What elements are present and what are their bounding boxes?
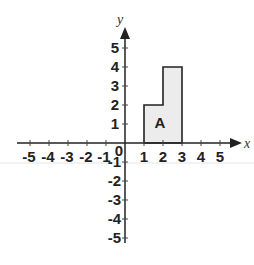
y-tick-label: -4 [108,210,122,227]
x-tick-label: -3 [60,148,73,165]
origin-label: 0 [115,142,123,159]
x-tick-label: 1 [140,148,148,165]
x-tick-label: 2 [159,148,167,165]
coordinate-plane: -5 -4 -3 -2 -1 1 2 3 4 5 5 4 3 2 1 -1 -2… [0,0,254,265]
y-tick-label: 3 [111,77,119,94]
y-tick-label: 4 [111,58,120,75]
y-tick-label: 1 [111,115,119,132]
x-axis-label: x [243,136,251,151]
y-tick-label: -3 [108,191,121,208]
x-tick-label: 3 [178,148,186,165]
x-tick-label: -5 [22,148,35,165]
x-axis-arrow-icon [230,138,242,148]
x-tick-label: 5 [216,148,224,165]
y-tick-label: -2 [108,172,121,189]
y-tick-label: 5 [111,39,119,56]
region-a-label: A [155,114,166,131]
x-tick-label: -4 [41,148,55,165]
region-a [144,67,182,143]
y-tick-label: -5 [108,229,121,246]
y-axis-label: y [115,12,124,27]
y-axis-arrow-icon [120,27,130,39]
x-tick-label: -2 [79,148,92,165]
y-tick-label: 2 [111,96,119,113]
x-tick-label: 4 [197,148,206,165]
